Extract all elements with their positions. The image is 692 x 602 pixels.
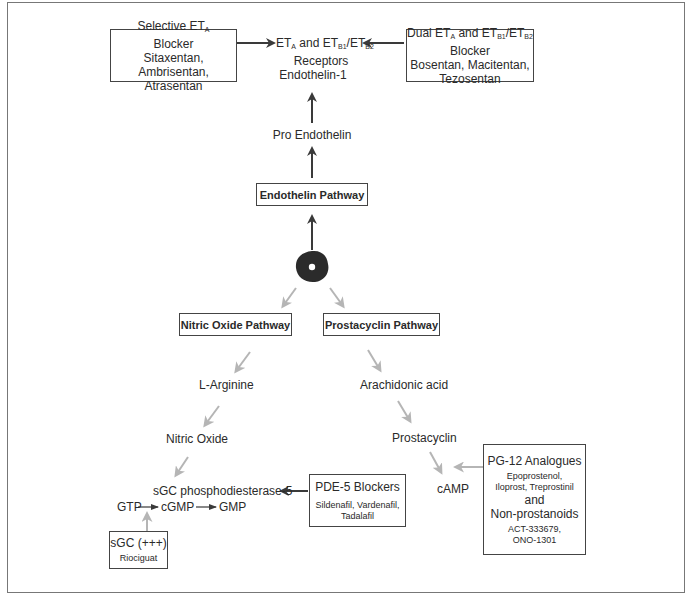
subscript: B2	[365, 43, 374, 50]
dual-blocker-drugs2: Tezosentan	[439, 72, 500, 86]
dual-blocker-line2: Blocker	[450, 44, 490, 58]
text: and ET	[296, 36, 338, 50]
prostacyclin-pathway-box: Prostacyclin Pathway	[323, 313, 440, 336]
endothelin-pathway-box: Endothelin Pathway	[256, 183, 368, 206]
text: and ET	[455, 26, 497, 40]
subscript: B1	[338, 43, 347, 50]
selective-blocker-drugs2: Atrasentan	[144, 79, 202, 93]
endothelin-1-label: Endothelin-1	[276, 68, 350, 82]
text: /ET	[506, 26, 525, 40]
arrow-no-to-sgc	[176, 457, 188, 475]
arrow-no-to-larginine	[236, 352, 250, 371]
selective-eta-blocker-box: Selective ETA Blocker Sitaxentan, Ambris…	[110, 29, 237, 82]
arrow-pc-to-arachidonic	[368, 350, 380, 370]
selective-blocker-line2: Blocker	[153, 37, 193, 51]
nitric-oxide-label: Nitric Oxide	[166, 432, 228, 446]
non-prostanoids-drug2: ONO-1301	[513, 535, 557, 546]
sgc-stimulator-box: sGC (+++) Riociguat	[109, 531, 168, 569]
pro-endothelin-label: Pro Endothelin	[270, 128, 354, 142]
camp-label: cAMP	[437, 482, 469, 496]
text: Dual ET	[407, 26, 450, 40]
pg12-and: and	[524, 493, 544, 507]
arrow-larginine-to-no	[205, 406, 219, 425]
receptors-line2: Receptors	[276, 54, 366, 68]
gmp-label: GMP	[219, 500, 246, 514]
selective-blocker-title: Selective ET	[137, 19, 204, 33]
arrow-arachidonic-to-prostacyclin	[398, 401, 410, 421]
arrow-prostacyclin-to-camp	[430, 452, 441, 472]
subscript: B1	[497, 33, 506, 40]
gtp-label: GTP	[117, 500, 142, 514]
subscript: A	[205, 26, 210, 33]
cgmp-label: cGMP	[161, 500, 194, 514]
l-arginine-label: L-Arginine	[199, 378, 254, 392]
sgc-box-title: sGC (+++)	[110, 536, 166, 550]
prostacyclin-label: Prostacyclin	[392, 431, 457, 445]
pde5-drugs: Sildenafil, Vardenafil,	[316, 500, 400, 511]
pde5-blockers-box: PDE-5 Blockers Sildenafil, Vardenafil, T…	[309, 474, 406, 527]
pg12-drugs2: Iloprost, Treprostinil	[495, 482, 574, 493]
text: ET	[276, 36, 291, 50]
dual-blocker-box: Dual ETA and ETB1/ETB2 Blocker Bosentan,…	[406, 29, 534, 82]
sgc-box-drug: Riociguat	[120, 553, 158, 564]
pg12-analogues-box: PG-12 Analogues Epoprostenol, Iloprost, …	[483, 444, 586, 555]
pde5-drugs2: Tadalafil	[341, 511, 374, 522]
non-prostanoids-title: Non-prostanoids	[490, 507, 578, 521]
subscript: B2	[524, 33, 533, 40]
dual-blocker-drugs: Bosentan, Macitentan,	[410, 58, 529, 72]
text: /ET	[347, 36, 366, 50]
pg12-drugs: Epoprostenol,	[507, 471, 563, 482]
pde5-title: PDE-5 Blockers	[315, 480, 400, 494]
arrow-cell-to-prostacyclin	[330, 288, 343, 306]
receptors-label: ETA and ETB1/ETB2 Receptors	[276, 36, 366, 68]
cell-icon	[296, 251, 329, 282]
sgc-pde5-label: sGC phosphodiesterase-5	[153, 484, 292, 498]
pg12-title: PG-12 Analogues	[487, 454, 581, 468]
nitric-oxide-pathway-box: Nitric Oxide Pathway	[179, 313, 292, 336]
non-prostanoids-drug1: ACT-333679,	[508, 524, 561, 535]
arachidonic-acid-label: Arachidonic acid	[360, 378, 448, 392]
selective-blocker-drugs: Sitaxentan, Ambrisentan,	[111, 51, 236, 79]
arrow-cell-to-no	[283, 288, 296, 306]
